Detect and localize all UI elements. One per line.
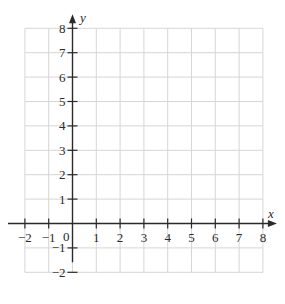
- x-tick-label: 5: [188, 230, 195, 245]
- y-tick-label: 3: [59, 143, 66, 158]
- x-axis-arrow-icon: [268, 220, 277, 227]
- x-axis-label: x: [267, 206, 274, 221]
- y-tick-label: 2: [59, 167, 66, 182]
- x-tick-label: 2: [117, 230, 124, 245]
- x-tick-label: 6: [212, 230, 219, 245]
- y-tick-label: 4: [59, 118, 66, 133]
- x-tick-label: 8: [260, 230, 267, 245]
- y-tick-label: 7: [59, 45, 66, 60]
- y-axis-label: y: [78, 10, 86, 25]
- y-tick-label: 1: [59, 192, 66, 207]
- x-tick-label: −2: [18, 230, 32, 245]
- y-axis-arrow-icon: [69, 14, 76, 23]
- x-tick-label: 3: [141, 230, 148, 245]
- origin-label: 0: [63, 229, 70, 244]
- x-tick-label: 4: [164, 230, 171, 245]
- coordinate-plane: −2−112345678−2−112345678 x y 0: [0, 0, 285, 304]
- y-tick-label: 6: [59, 70, 66, 85]
- x-tick-label: 1: [93, 230, 100, 245]
- x-tick-label: 7: [236, 230, 243, 245]
- y-tick-label: 5: [59, 94, 66, 109]
- y-tick-label: −2: [52, 265, 66, 280]
- y-tick-label: 8: [59, 21, 66, 36]
